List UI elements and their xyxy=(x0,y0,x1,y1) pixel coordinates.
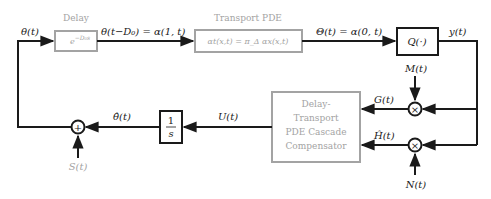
feedback-left-line xyxy=(18,41,72,127)
block-diagram: × × + θ(t) Delay e−D₀s θ(t−D₀) = α(1, t)… xyxy=(0,0,491,199)
transport-content: αt(x,t) = π_Δ αx(x,t) xyxy=(208,37,289,46)
output-right-line xyxy=(438,41,477,145)
theta-hat-label: θ̂(t) xyxy=(113,111,131,122)
U-label: U(t) xyxy=(218,111,238,122)
delay-title: Delay xyxy=(63,13,90,23)
transport-title: Transport PDE xyxy=(214,13,282,23)
svg-text:×: × xyxy=(411,104,419,115)
svg-text:×: × xyxy=(411,140,419,151)
N-label: N(t) xyxy=(405,179,427,190)
G-label: G(t) xyxy=(374,94,394,105)
compensator-line-2: Transport xyxy=(293,113,339,123)
M-label: M(t) xyxy=(404,63,427,74)
svg-text:+: + xyxy=(74,122,82,133)
theta-label: θ(t) xyxy=(21,26,39,37)
quantizer-content: Q(·) xyxy=(407,36,426,47)
sum-junction: + xyxy=(72,121,85,134)
integrator-denominator: s xyxy=(168,128,173,139)
compensator-line-1: Delay- xyxy=(302,99,331,109)
mult-top-junction: × xyxy=(409,103,422,116)
compensator-line-4: Compensator xyxy=(285,141,347,151)
y-label: y(t) xyxy=(448,26,467,37)
H-hat-label: Ĥ(t) xyxy=(373,130,395,141)
integrator-numerator: 1 xyxy=(168,115,174,126)
theta-delayed-label: θ(t−D₀) = α(1, t) xyxy=(101,26,185,37)
Theta-label: Θ(t) = α(0, t) xyxy=(316,26,382,37)
compensator-line-3: PDE Cascade xyxy=(285,127,346,137)
mult-bottom-junction: × xyxy=(409,139,422,152)
S-label: S(t) xyxy=(69,161,88,172)
